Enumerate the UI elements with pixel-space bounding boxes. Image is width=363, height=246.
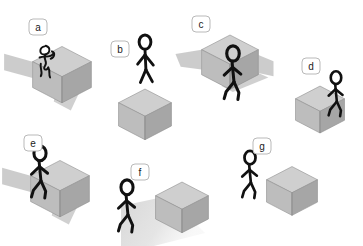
panel-label-f-text: f (139, 167, 142, 178)
panel-label-e: e (24, 135, 42, 151)
panel-label-g-text: g (259, 141, 265, 152)
panel-label-c: c (192, 16, 210, 32)
panel-label-f: f (131, 164, 149, 180)
panel-label-d: d (302, 58, 320, 74)
panel-label-a: a (29, 19, 47, 35)
panel-label-d-text: d (308, 61, 314, 72)
panel-label-c-text: c (199, 19, 204, 30)
panel-label-e-text: e (30, 138, 36, 149)
panel-label-b: b (111, 41, 129, 57)
illustration-canvas: abcdefg (0, 0, 363, 246)
panel-label-b-text: b (117, 44, 123, 55)
panels-scene: abcdefg (0, 0, 363, 246)
panel-label-g: g (253, 138, 271, 154)
panel-label-a-text: a (35, 22, 41, 33)
